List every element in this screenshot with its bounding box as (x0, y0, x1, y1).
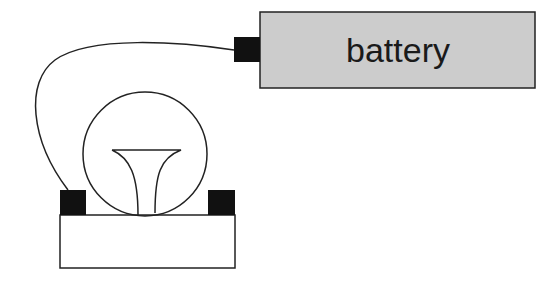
base-terminal-right (208, 190, 235, 215)
wire (36, 43, 234, 190)
battery-label: battery (260, 12, 536, 88)
bulb-glass (83, 92, 207, 216)
bulb-base (60, 215, 235, 268)
battery-terminal (234, 37, 260, 62)
bulb-filament (112, 150, 181, 215)
base-terminal-left (60, 190, 86, 215)
